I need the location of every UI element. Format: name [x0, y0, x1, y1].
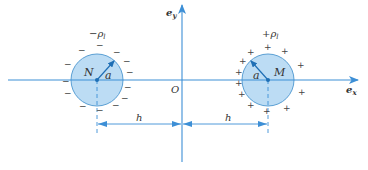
svg-text:+: + [263, 106, 271, 116]
svg-text:−: − [62, 76, 70, 86]
svg-text:+: + [238, 89, 246, 99]
x-axis-label: ex [346, 84, 357, 97]
right-charge-label: +ρl [262, 28, 279, 41]
svg-text:−: − [79, 101, 87, 111]
y-axis-label: ey [166, 7, 177, 20]
svg-text:−: − [126, 67, 134, 77]
svg-text:−: − [123, 56, 131, 66]
right-conductor-label: M [273, 66, 286, 79]
svg-text:+: + [247, 100, 255, 110]
svg-text:−: − [96, 40, 104, 50]
left-radius-label: a [105, 69, 112, 82]
svg-text:−: − [64, 88, 72, 98]
right-distance-label: h [225, 112, 231, 123]
svg-text:+: + [239, 56, 247, 66]
svg-text:+: + [235, 78, 243, 88]
svg-text:−: − [112, 100, 120, 110]
svg-text:−: − [64, 59, 72, 69]
svg-text:+: + [283, 103, 291, 113]
right-radius-label: a [253, 69, 260, 82]
svg-text:+: + [247, 47, 255, 57]
svg-text:−: − [96, 105, 104, 115]
svg-text:+: + [281, 46, 289, 56]
svg-text:−: − [121, 93, 129, 103]
svg-text:−: − [78, 45, 86, 55]
svg-text:+: + [235, 67, 243, 77]
svg-text:−: − [113, 47, 121, 57]
svg-text:−: − [124, 82, 132, 92]
svg-text:+: + [264, 42, 272, 52]
left-distance-label: h [136, 112, 142, 123]
origin-label: O [171, 84, 179, 95]
left-conductor-label: N [83, 66, 94, 79]
svg-text:+: + [298, 87, 306, 97]
two-line-charges-diagram: N a M a −ρl +ρl − − − − − − − − − − − − … [0, 0, 368, 170]
svg-text:+: + [297, 60, 305, 70]
